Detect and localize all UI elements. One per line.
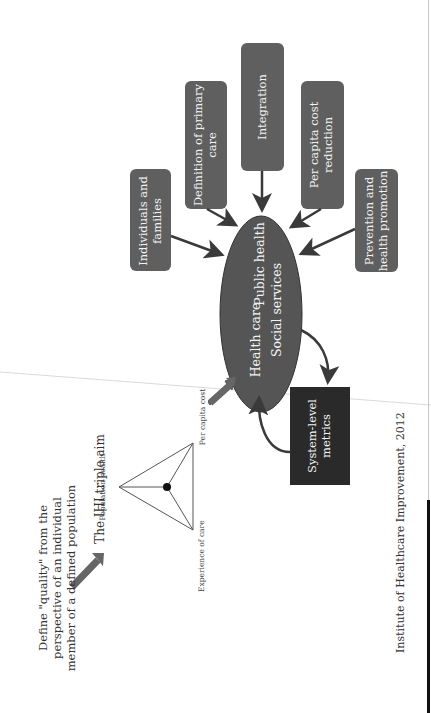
arrow-cost-reduction xyxy=(293,209,321,226)
big-arrow-to-ellipse xyxy=(208,377,236,405)
arrow-individuals xyxy=(171,236,220,254)
integration-line-1: Integration xyxy=(255,43,269,171)
individuals-line-2: families xyxy=(150,170,164,272)
arrow-prevention xyxy=(303,229,355,253)
individuals-line-1: Individuals and xyxy=(136,170,150,272)
triple-aim-label-experience-of-care: Experience of care xyxy=(197,522,207,592)
metrics-line-1: System-level xyxy=(305,387,319,485)
box-integration: Integration xyxy=(255,43,269,171)
triple-aim-label-per-capita-cost: Per capita cost xyxy=(198,387,208,447)
metrics-line-2: metrics xyxy=(319,387,333,485)
prevention-line-2: health promotion xyxy=(376,170,390,273)
box-individuals: Individuals and families xyxy=(136,170,166,272)
page-edge-dark-line xyxy=(427,500,430,713)
primary-care-line-1: Definition of primary xyxy=(191,81,205,209)
ellipse-label-social-services: Social services xyxy=(270,260,284,360)
prevention-line-1: Prevention and xyxy=(362,170,376,273)
citation-text: Institute of Healthcare Improvement, 201… xyxy=(394,463,408,653)
cost-reduction-line-1: Per capita cost xyxy=(307,81,321,209)
definition-line-3: member of a defined population xyxy=(64,478,78,678)
arrow-ellipse-to-metrics xyxy=(301,330,328,380)
triple-aim-label-population-health: Population health xyxy=(98,452,108,522)
arrow-primary-care xyxy=(207,209,234,224)
box-primary-care: Definition of primary care xyxy=(191,81,221,209)
ellipse-label-public-health: Public health xyxy=(253,219,267,309)
box-cost-reduction: Per capita cost reduction xyxy=(307,81,337,209)
quality-definition-text: Define "quality" from the perspective of… xyxy=(36,478,80,678)
triple-aim-center-dot xyxy=(163,483,171,491)
definition-line-2: perspective of an individual xyxy=(50,478,64,678)
definition-line-1: Define "quality" from the xyxy=(36,478,50,678)
box-prevention: Prevention and health promotion xyxy=(362,170,392,273)
diagram-canvas: Individuals and families Definition of p… xyxy=(0,0,431,713)
metrics-box: System-level metrics xyxy=(305,387,335,485)
cost-reduction-line-2: reduction xyxy=(321,81,335,209)
primary-care-line-2: care xyxy=(205,81,219,209)
triple-aim-triangle xyxy=(119,443,193,530)
